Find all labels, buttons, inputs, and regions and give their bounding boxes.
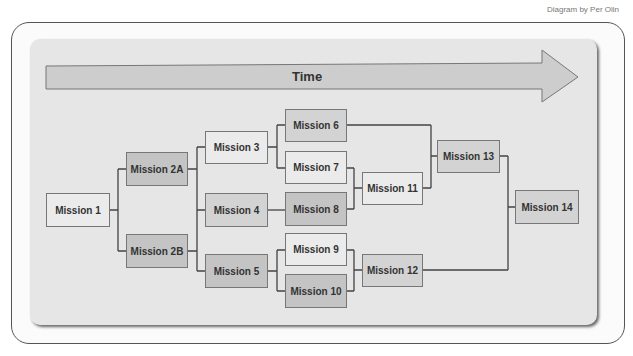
mission-9: Mission 9 [285, 233, 347, 266]
mission-3: Mission 3 [205, 131, 268, 164]
mission-14: Mission 14 [515, 190, 579, 224]
mission-2a: Mission 2A [126, 152, 188, 186]
mission-12: Mission 12 [362, 254, 423, 287]
mission-11: Mission 11 [362, 172, 423, 205]
time-label: Time [292, 69, 322, 84]
mission-7: Mission 7 [285, 151, 347, 184]
mission-1: Mission 1 [46, 193, 110, 227]
mission-10: Mission 10 [285, 274, 347, 308]
mission-4: Mission 4 [205, 193, 268, 227]
mission-8: Mission 8 [285, 192, 347, 226]
mission-2b: Mission 2B [126, 234, 188, 268]
mission-6: Mission 6 [285, 109, 347, 142]
mission-13: Mission 13 [437, 140, 500, 173]
mission-5: Mission 5 [205, 254, 268, 288]
